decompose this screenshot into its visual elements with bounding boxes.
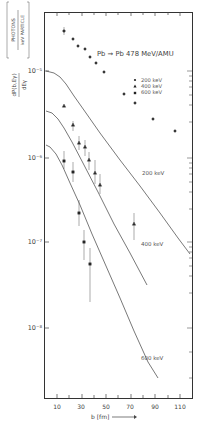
y-axis-units: PHOTONS keV PARTICLE	[7, 2, 29, 58]
data-point	[95, 62, 97, 64]
xtick-label: 10	[53, 403, 61, 410]
data-point	[132, 222, 135, 225]
ytick-label: 10⁻⁵	[28, 67, 43, 75]
ytick-label: 10⁻⁸	[28, 324, 43, 332]
data-point	[174, 130, 176, 132]
data-point	[134, 102, 136, 104]
chart: 10⁻⁵ 10⁻⁶ 10⁻⁷ 10⁻⁸ 10 30 50 70 90 110 b…	[0, 0, 204, 422]
curve-label-200: 200 keV	[142, 170, 165, 176]
bracket-right	[27, 2, 29, 58]
data-point	[89, 56, 91, 58]
data-point	[63, 30, 66, 33]
xtick-label: 50	[102, 403, 110, 410]
legend: 200 keV 400 keV 600 keV	[133, 77, 162, 95]
y-axis-label: dP(b,Eγ) dEγ	[11, 73, 28, 97]
data-point	[84, 48, 86, 50]
legend-square-icon	[134, 92, 136, 94]
plot-frame	[45, 13, 193, 399]
data-point	[87, 158, 90, 161]
legend-label-600: 600 keV	[141, 89, 163, 95]
legend-circle-icon	[134, 79, 136, 81]
data-point	[98, 183, 101, 186]
series-600kev	[63, 151, 91, 302]
curve-label-400: 400 keV	[141, 241, 164, 247]
curve-200kev	[46, 71, 190, 254]
data-point	[89, 263, 91, 265]
arrowhead-icon	[134, 415, 137, 419]
data-point	[152, 118, 154, 120]
curve-600kev	[46, 145, 158, 378]
data-point	[77, 45, 79, 47]
data-point	[72, 171, 74, 173]
xtick-label: 70	[126, 403, 134, 410]
data-point	[103, 71, 105, 73]
data-point	[72, 38, 74, 40]
right-ticks	[187, 71, 192, 378]
data-point	[62, 104, 65, 107]
data-point	[83, 145, 86, 148]
data-point	[93, 171, 96, 174]
reaction-title: Pb → Pb 478 MeV/AMU	[97, 50, 174, 58]
bottom-ticks	[57, 394, 180, 398]
xtick-label: 110	[174, 403, 186, 410]
ylabel-units-bottom: keV PARTICLE	[20, 15, 25, 45]
ytick-label: 10⁻⁶	[28, 154, 43, 162]
data-point	[123, 93, 125, 95]
ylabel-units-top: PHOTONS	[11, 18, 16, 42]
curve-label-600: 600 keV	[141, 355, 164, 361]
legend-triangle-icon	[133, 85, 136, 88]
ylabel-denominator: dEγ	[21, 79, 28, 90]
ylabel-numerator: dP(b,Eγ)	[11, 73, 18, 96]
bracket-left	[7, 2, 9, 58]
x-axis-label: b [fm]	[91, 413, 109, 420]
xtick-label: 30	[77, 403, 85, 410]
data-point	[71, 123, 74, 126]
curve-400kev	[46, 111, 147, 285]
data-point	[77, 141, 80, 144]
data-point	[78, 212, 80, 214]
xtick-label: 90	[151, 403, 159, 410]
data-point	[63, 160, 65, 162]
data-point	[83, 241, 85, 243]
ytick-label: 10⁻⁷	[28, 238, 43, 246]
